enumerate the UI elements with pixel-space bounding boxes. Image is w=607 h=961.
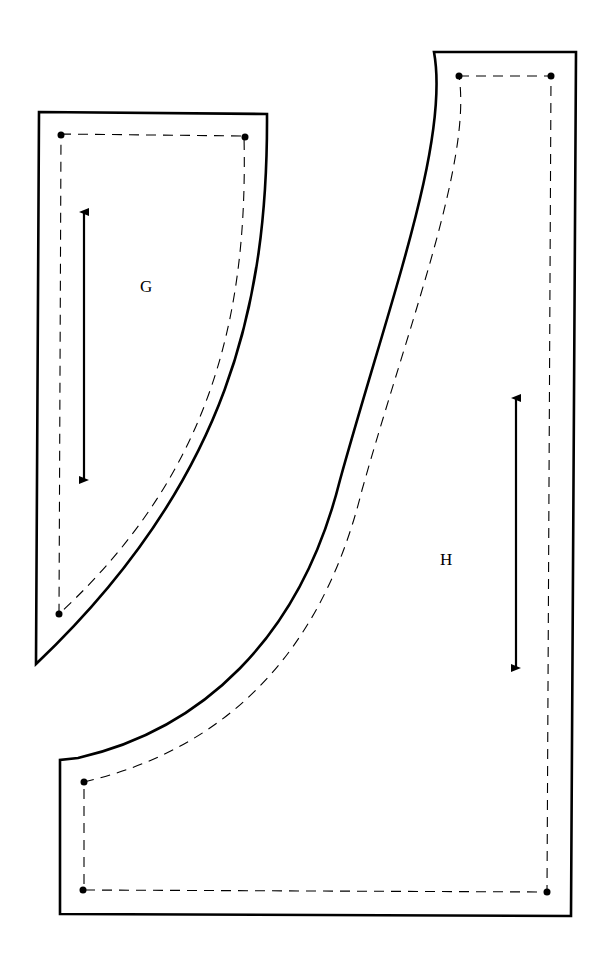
piece-g-corner-dot (58, 132, 65, 139)
piece-g-label: G (140, 277, 152, 296)
piece-g-corner-dot (242, 134, 249, 141)
pattern-piece-g: G (36, 112, 267, 664)
piece-h-corner-dot (80, 887, 87, 894)
piece-g-seam-line (59, 134, 244, 614)
pattern-piece-h: H (60, 52, 576, 916)
piece-g-corner-dot (56, 611, 63, 618)
piece-h-corner-dot (544, 889, 551, 896)
piece-h-corner-dot (456, 73, 463, 80)
pattern-diagram: G H (0, 0, 607, 961)
piece-g-cut-line (36, 112, 267, 664)
piece-h-corner-dot (81, 779, 88, 786)
piece-h-cut-line (60, 52, 576, 916)
piece-h-label: H (440, 550, 452, 569)
piece-h-seam-line (84, 76, 551, 892)
piece-h-corner-dot (548, 73, 555, 80)
